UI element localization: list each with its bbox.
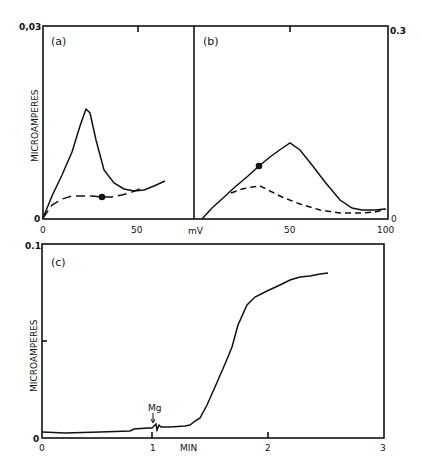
panel-b-plot bbox=[202, 143, 386, 219]
mg-annotation-label: Mg bbox=[148, 403, 161, 413]
figure: (a) (b) (c) 0,03 0 0 50 mV 50 100 0.3 0 … bbox=[0, 0, 422, 475]
panel-a-y-max-label: 0,03 bbox=[19, 22, 41, 32]
panel-a-x-0-label: 0 bbox=[40, 225, 46, 235]
panel-b-x-50-label: 50 bbox=[284, 225, 296, 235]
mg-arrow-icon bbox=[151, 413, 155, 423]
panel-a-y-zero-label: 0 bbox=[34, 214, 40, 224]
x-unit-label-mv: mV bbox=[188, 226, 204, 236]
panel-c-x-2-label: 2 bbox=[265, 443, 271, 453]
panel-a-marker bbox=[99, 194, 106, 201]
panel-c-x-1-label: 1 bbox=[150, 443, 156, 453]
panel-a-x-50-label: 50 bbox=[131, 225, 143, 235]
panel-c-label: (c) bbox=[51, 256, 66, 269]
panel-b-label: (b) bbox=[203, 35, 219, 48]
panel-c-y-max-label: 0.1 bbox=[25, 241, 41, 251]
panel-b-solid-curve bbox=[202, 143, 385, 219]
panel-a-label: (a) bbox=[51, 35, 66, 48]
panel-b-x-100-label: 100 bbox=[377, 225, 394, 235]
panel-a-dashed-curve bbox=[43, 188, 142, 218]
panel-b-y-zero-label: 0 bbox=[391, 214, 397, 224]
panel-c-curve bbox=[42, 273, 328, 433]
x-unit-label-min: MIN bbox=[180, 443, 197, 453]
panel-a-plot bbox=[43, 109, 165, 218]
panel-c-x-0-label: 0 bbox=[39, 443, 45, 453]
panel-b-dashed-curve bbox=[231, 186, 386, 213]
panel-a-solid-curve bbox=[43, 109, 165, 218]
panel-b-y-max-label: 0.3 bbox=[390, 26, 406, 36]
panel-a-y-axis-label: MICROAMPERES bbox=[30, 89, 40, 162]
panel-c-frame bbox=[42, 244, 384, 438]
panel-ab-frame bbox=[43, 26, 388, 219]
panel-c-x-3-label: 3 bbox=[380, 443, 386, 453]
panel-b-marker bbox=[256, 163, 263, 170]
panel-c-y-axis-label: MICROAMPERES bbox=[29, 319, 39, 392]
